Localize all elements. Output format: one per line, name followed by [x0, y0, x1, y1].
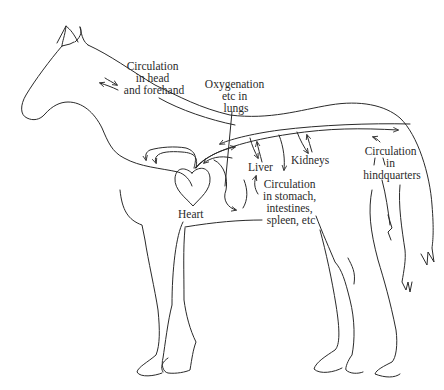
label-kidneys: Kidneys	[291, 154, 330, 167]
label-heart: Heart	[178, 208, 204, 220]
diagram-svg: Circulation in head and forehand Oxygena…	[0, 0, 444, 390]
label-abdomen-circulation: Circulation in stomach, intestines, sple…	[263, 178, 319, 227]
circulation-arrows	[100, 78, 410, 210]
label-lungs: Oxygenation etc in lungs	[205, 78, 267, 115]
label-head-circulation: Circulation in head and forehand	[124, 60, 185, 96]
heart-shape	[175, 168, 210, 206]
horse-circulation-diagram: Circulation in head and forehand Oxygena…	[0, 0, 444, 390]
label-hindquarters: Circulation in hindquarters	[363, 145, 421, 182]
diagram-labels: Circulation in head and forehand Oxygena…	[124, 60, 421, 227]
label-liver: Liver	[248, 161, 273, 173]
